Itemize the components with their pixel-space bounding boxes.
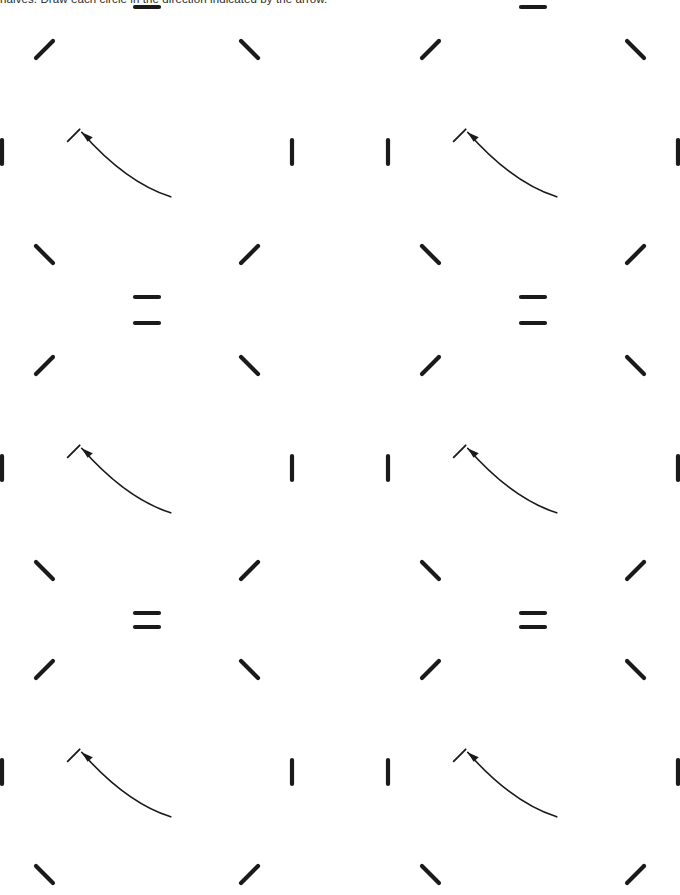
dashed-circle bbox=[2, 627, 292, 895]
counterclockwise-arrow bbox=[454, 749, 557, 817]
circle-dash-mark bbox=[36, 357, 53, 374]
arrow-shaft bbox=[82, 752, 171, 817]
circle-dash-mark bbox=[627, 562, 644, 579]
circle-dash-mark bbox=[627, 661, 644, 678]
worksheet-page: halves. Draw each circle in the directio… bbox=[0, 0, 680, 895]
circle-dash-mark bbox=[422, 562, 439, 579]
arrow-shaft bbox=[468, 132, 557, 197]
arrow-tail-flick bbox=[68, 129, 80, 141]
arrow-head bbox=[82, 132, 93, 141]
arrow-head bbox=[468, 752, 479, 761]
dashed-circle bbox=[388, 7, 678, 297]
circle-dash-mark bbox=[627, 246, 644, 263]
circle-dash-mark bbox=[241, 866, 258, 883]
arrow-shaft bbox=[82, 448, 171, 513]
dashed-circle bbox=[2, 323, 292, 613]
dash-marks-layer bbox=[2, 7, 678, 895]
circle-dash-mark bbox=[241, 246, 258, 263]
circle-dash-mark bbox=[36, 41, 53, 58]
circle-dash-mark bbox=[422, 357, 439, 374]
counterclockwise-arrow bbox=[68, 445, 171, 513]
arrow-head bbox=[468, 448, 479, 457]
dashed-circle bbox=[2, 7, 292, 297]
arrow-head bbox=[468, 132, 479, 141]
arrow-shaft bbox=[82, 132, 171, 197]
circle-dash-mark bbox=[241, 41, 258, 58]
circle-dash-mark bbox=[422, 661, 439, 678]
counterclockwise-arrow bbox=[454, 445, 557, 513]
direction-arrows-layer bbox=[68, 129, 557, 817]
circle-dash-mark bbox=[241, 661, 258, 678]
arrow-tail-flick bbox=[68, 749, 80, 761]
counterclockwise-arrow bbox=[68, 749, 171, 817]
circle-dash-mark bbox=[241, 562, 258, 579]
circle-dash-mark bbox=[422, 41, 439, 58]
circle-dash-mark bbox=[36, 246, 53, 263]
arrow-tail-flick bbox=[454, 749, 466, 761]
circle-dash-mark bbox=[627, 866, 644, 883]
arrow-tail-flick bbox=[68, 445, 80, 457]
circle-dash-mark bbox=[422, 246, 439, 263]
circle-dash-mark bbox=[627, 41, 644, 58]
arrow-shaft bbox=[468, 448, 557, 513]
arrow-head bbox=[82, 448, 93, 457]
arrow-tail-flick bbox=[454, 445, 466, 457]
counterclockwise-arrow bbox=[454, 129, 557, 197]
counterclockwise-arrow bbox=[68, 129, 171, 197]
circle-dash-mark bbox=[241, 357, 258, 374]
arrow-shaft bbox=[468, 752, 557, 817]
circle-dash-mark bbox=[36, 562, 53, 579]
circle-grid bbox=[0, 0, 680, 895]
circle-dash-mark bbox=[36, 661, 53, 678]
dashed-circle bbox=[388, 627, 678, 895]
arrow-tail-flick bbox=[454, 129, 466, 141]
arrow-head bbox=[82, 752, 93, 761]
dashed-circle bbox=[388, 323, 678, 613]
circle-dash-mark bbox=[627, 357, 644, 374]
circle-dash-mark bbox=[422, 866, 439, 883]
circle-dash-mark bbox=[36, 866, 53, 883]
